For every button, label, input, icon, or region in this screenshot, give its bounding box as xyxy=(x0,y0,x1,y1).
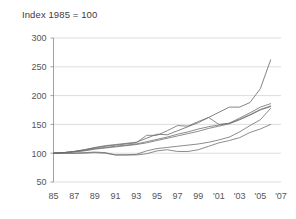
x-axis-tick-labels: 8587899193959799'01'03'05'07 xyxy=(48,191,286,201)
x-tick-label: '01 xyxy=(213,191,225,201)
x-tick-label: '07 xyxy=(275,191,287,201)
y-tick-label: 150 xyxy=(31,120,46,130)
y-tick-label: 250 xyxy=(31,62,46,72)
axes xyxy=(51,38,54,182)
y-tick-label: 50 xyxy=(36,177,46,187)
y-axis-tick-labels: 50100150200250300 xyxy=(31,33,46,187)
chart-container: Index 1985 = 100 50100150200250300 85878… xyxy=(0,0,296,219)
x-tick-label: 97 xyxy=(173,191,183,201)
x-tick-label: 87 xyxy=(69,191,79,201)
gridlines xyxy=(54,38,282,182)
x-tick-label: 91 xyxy=(111,191,121,201)
x-tick-label: 89 xyxy=(90,191,100,201)
x-tick-label: 85 xyxy=(48,191,58,201)
y-tick-label: 300 xyxy=(31,33,46,43)
y-tick-label: 200 xyxy=(31,91,46,101)
series-line-series-4 xyxy=(54,107,271,154)
data-series-group xyxy=(54,60,271,155)
x-tick-label: 93 xyxy=(131,191,141,201)
line-chart-plot: 50100150200250300 8587899193959799'01'03… xyxy=(0,0,296,219)
series-line-series-3 xyxy=(54,106,271,153)
series-line-series-2 xyxy=(54,104,271,154)
x-tick-label: 99 xyxy=(193,191,203,201)
x-tick-label: '03 xyxy=(234,191,246,201)
y-tick-label: 100 xyxy=(31,149,46,159)
x-tick-label: 95 xyxy=(152,191,162,201)
series-line-series-5 xyxy=(54,108,271,155)
x-tick-label: '05 xyxy=(254,191,266,201)
